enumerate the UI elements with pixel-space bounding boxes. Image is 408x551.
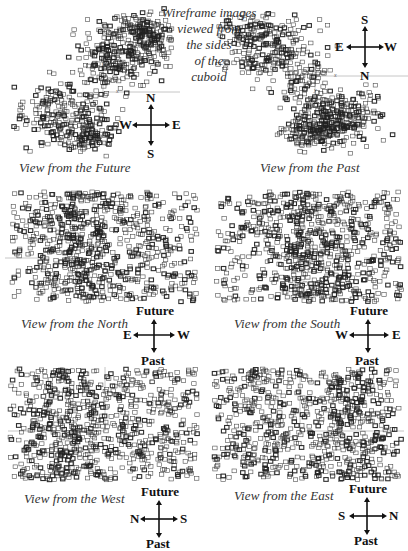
compass-south: Future Past W E — [334, 300, 408, 364]
compass-top-label: Future — [349, 482, 387, 496]
compass-right-label: S — [180, 512, 187, 526]
compass-top-label: S — [361, 13, 368, 27]
caption-north: View from the North — [21, 316, 128, 332]
scatter-north — [0, 180, 204, 315]
compass-left-label: W — [119, 118, 132, 132]
compass-north: Future Past E W — [118, 300, 198, 364]
compass-left-label: W — [335, 328, 348, 342]
compass-top-label: N — [146, 91, 155, 105]
compass-bottom-label: Past — [354, 534, 378, 548]
panel-view-from-past: yx View from the Past S N E W — [204, 0, 408, 180]
panel-view-from-east: View from the East Future Past S N — [204, 365, 408, 551]
compass-bottom-label: N — [360, 69, 369, 83]
scatter-south — [204, 180, 408, 315]
panel-view-from-south: View from the South Future Past W E — [204, 180, 408, 365]
compass-future: N S W E — [116, 93, 186, 157]
caption-future: View from the Future — [19, 160, 131, 176]
panel-view-from-north: View from the North Future Past E W — [0, 180, 204, 365]
compass-left-label: N — [130, 512, 139, 526]
compass-left-label: S — [338, 509, 345, 523]
compass-east: Future Past S N — [342, 484, 408, 548]
compass-bottom-label: Past — [146, 537, 170, 551]
compass-top-label: Future — [141, 485, 179, 499]
caption-south: View from the South — [234, 316, 340, 332]
compass-top-label: Future — [350, 304, 388, 318]
scatter-west — [0, 365, 204, 490]
caption-east: View from the East — [234, 488, 334, 504]
compass-left-label: E — [335, 40, 344, 54]
compass-left-label: E — [123, 328, 132, 342]
compass-right-label: E — [392, 328, 401, 342]
compass-past: S N E W — [330, 15, 400, 79]
compass-right-label: N — [389, 509, 398, 523]
caption-west: View from the West — [24, 491, 125, 507]
compass-top-label: Future — [136, 304, 174, 318]
panel-view-from-west: View from the West Future Past N S — [0, 365, 204, 551]
compass-west: Future Past N S — [130, 487, 210, 551]
scatter-east — [204, 365, 408, 490]
compass-right-label: W — [177, 328, 190, 342]
compass-right-label: E — [172, 118, 181, 132]
caption-past: View from the Past — [260, 160, 360, 176]
compass-right-label: W — [384, 40, 397, 54]
compass-bottom-label: S — [147, 147, 154, 161]
